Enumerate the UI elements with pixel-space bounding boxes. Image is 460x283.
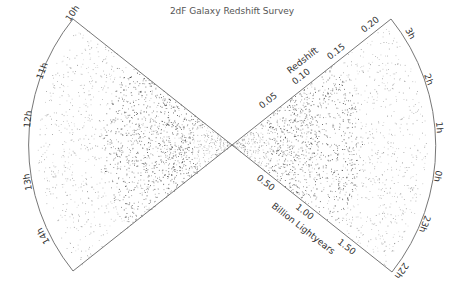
ra-label: 22h	[393, 261, 411, 281]
distance-tick: 1.50	[336, 237, 358, 257]
ra-label: 10h	[63, 3, 81, 23]
ra-label: 11h	[34, 61, 49, 81]
ra-label: 23h	[417, 214, 432, 234]
redshift-axis: 0.05 0.10 0.15 0.20 Redshift	[257, 14, 381, 110]
ra-label: 1h	[434, 121, 445, 133]
redshift-tick: 0.20	[359, 14, 381, 34]
ra-label: 13h	[21, 173, 34, 192]
redshift-tick: 0.15	[325, 41, 347, 61]
figure-title: 2dF Galaxy Redshift Survey	[170, 6, 295, 16]
ra-label: 0h	[432, 170, 444, 183]
redshift-tick: 0.05	[257, 90, 279, 110]
ra-label: 12h	[22, 110, 33, 128]
distance-tick: 0.50	[255, 173, 277, 193]
ra-label: 2h	[422, 72, 435, 86]
distance-axis: 0.50 1.00 1.50 Billion Lightyears	[255, 173, 358, 257]
cone-diagram: 2dF Galaxy Redshift Survey 10h 11h 12h 1…	[0, 0, 460, 283]
galaxy-points	[38, 29, 428, 266]
ra-label: 14h	[34, 226, 51, 246]
